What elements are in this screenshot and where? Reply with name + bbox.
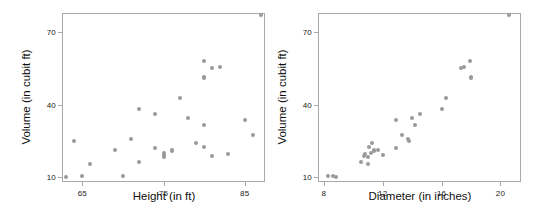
data-point xyxy=(137,107,141,111)
data-point xyxy=(194,141,198,145)
data-point xyxy=(366,162,370,166)
data-point xyxy=(440,107,444,111)
panel-diameter-vs-volume: 8121620104070 Diameter (in inches) Volum… xyxy=(276,0,552,215)
y-tick-mark xyxy=(314,177,318,178)
data-point xyxy=(394,146,398,150)
data-point xyxy=(170,148,174,152)
y-tick-label: 10 xyxy=(40,173,56,182)
y-tick-mark xyxy=(58,105,62,106)
data-point xyxy=(243,118,247,122)
x-tick-mark xyxy=(500,182,501,186)
data-point xyxy=(162,153,166,157)
x-tick-mark xyxy=(82,182,83,186)
x-tick-label: 65 xyxy=(78,189,87,198)
data-point xyxy=(251,133,255,137)
x-tick-mark xyxy=(324,182,325,186)
x-axis-title-right: Diameter (in inches) xyxy=(369,190,472,202)
y-tick-mark xyxy=(58,32,62,33)
data-point xyxy=(334,175,338,179)
data-point xyxy=(468,59,472,63)
data-point xyxy=(202,123,206,127)
y-tick-label: 10 xyxy=(296,173,312,182)
x-tick-label: 20 xyxy=(496,189,505,198)
data-point xyxy=(400,133,404,137)
data-point xyxy=(359,160,363,164)
data-point xyxy=(462,65,466,69)
x-tick-mark xyxy=(442,182,443,186)
data-point xyxy=(113,148,117,152)
x-tick-mark xyxy=(245,182,246,186)
data-point xyxy=(418,112,422,116)
x-axis-title-left: Height (in ft) xyxy=(133,190,196,202)
x-tick-mark xyxy=(383,182,384,186)
y-tick-label: 40 xyxy=(296,100,312,109)
data-point xyxy=(394,118,398,122)
x-tick-label: 8 xyxy=(322,189,327,198)
plot-frame-right xyxy=(318,13,521,182)
y-tick-label: 70 xyxy=(40,28,56,37)
y-tick-mark xyxy=(314,32,318,33)
data-point xyxy=(372,148,376,152)
y-tick-mark xyxy=(58,177,62,178)
y-tick-label: 40 xyxy=(40,100,56,109)
data-point xyxy=(413,123,417,127)
data-point xyxy=(381,153,385,157)
data-point xyxy=(202,145,206,149)
panel-height-vs-volume: 657585104070 Height (in ft) Volume (in c… xyxy=(0,0,276,215)
x-tick-label: 85 xyxy=(240,189,249,198)
y-axis-title-left: Volume (in cubit ft) xyxy=(20,49,32,144)
y-tick-mark xyxy=(314,105,318,106)
data-point xyxy=(210,66,214,70)
data-point xyxy=(186,116,190,120)
scatterplot-figure: 657585104070 Height (in ft) Volume (in c… xyxy=(0,0,552,215)
y-tick-label: 70 xyxy=(296,28,312,37)
data-point xyxy=(64,175,68,179)
y-axis-title-right: Volume (in cubit ft) xyxy=(276,49,288,144)
data-point xyxy=(202,59,206,63)
x-tick-mark xyxy=(164,182,165,186)
data-point xyxy=(137,160,141,164)
